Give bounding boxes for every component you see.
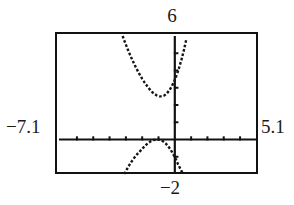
axis-ticks-group xyxy=(77,53,240,157)
x-min-label: −7.1 xyxy=(6,117,40,137)
calculator-graph-screenshot: 6 −7.1 5.1 −2 xyxy=(0,0,294,205)
axes-group xyxy=(59,36,258,174)
x-max-label: 5.1 xyxy=(261,117,285,137)
plot-canvas xyxy=(57,34,260,176)
y-min-label: −2 xyxy=(144,178,196,198)
plot-frame xyxy=(55,32,258,174)
y-max-label: 6 xyxy=(160,6,184,26)
